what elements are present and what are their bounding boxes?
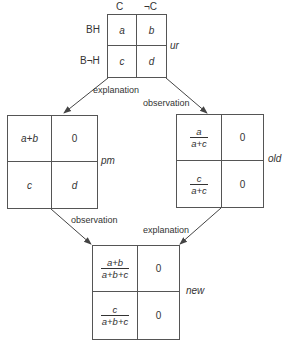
table-name-new: new (186, 285, 204, 296)
old-cell-zero-bottom: 0 (222, 161, 263, 207)
table-name-old: old (268, 153, 281, 164)
table-name-pm: pm (101, 155, 115, 166)
ur-cell-a: a (108, 15, 136, 45)
numerator: c (196, 173, 203, 184)
pm-cell-d: d (52, 162, 97, 208)
numerator: a+b (106, 257, 124, 268)
fraction: a+b a+b+c (101, 257, 129, 280)
pm-cell-zero: 0 (52, 116, 97, 161)
denominator: a+b+c (101, 315, 129, 327)
edge-label-observation-ur-old: observation (143, 98, 190, 108)
numerator: a (195, 126, 202, 137)
new-cell-a-plus-b-over-a-plus-b-plus-c: a+b a+b+c (93, 246, 137, 291)
denominator: a+b+c (101, 268, 129, 280)
new-cell-zero-top: 0 (138, 246, 179, 291)
arrow-ur-to-pm (64, 78, 108, 113)
pm-cell-c: c (8, 162, 51, 208)
old-cell-c-over-a-plus-c: c a+c (177, 161, 221, 207)
denominator: a+c (190, 137, 208, 149)
ur-cell-c: c (108, 46, 136, 77)
col-header-not-c: ¬C (144, 1, 157, 12)
table-name-ur: ur (170, 40, 179, 51)
col-header-c: C (116, 1, 123, 12)
old-cell-zero-top: 0 (222, 115, 263, 160)
new-cell-c-over-a-plus-b-plus-c: c a+b+c (93, 292, 137, 339)
fraction: c a+c (190, 173, 208, 196)
denominator: a+c (190, 184, 208, 196)
edge-label-observation-pm-new: observation (71, 215, 118, 225)
fraction: a a+c (190, 126, 208, 149)
new-cell-zero-bottom: 0 (138, 292, 179, 339)
fraction: c a+b+c (101, 304, 129, 327)
old-cell-a-over-a-plus-c: a a+c (177, 115, 221, 160)
row-header-bh: BH (86, 24, 100, 35)
edge-label-explanation-old-new: explanation (143, 225, 189, 235)
ur-cell-b: b (137, 15, 166, 45)
numerator: c (112, 304, 119, 315)
edge-label-explanation-ur-pm: explanation (93, 85, 139, 95)
pm-cell-a-plus-b: a+b (8, 116, 51, 161)
row-header-b-not-h: B¬H (80, 55, 100, 66)
ur-cell-d: d (137, 46, 166, 77)
